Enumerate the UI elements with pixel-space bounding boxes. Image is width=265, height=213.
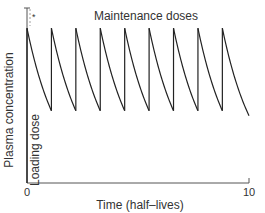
curve-layer bbox=[27, 28, 249, 183]
axes bbox=[24, 8, 249, 183]
y-axis-label: Plasma concentration bbox=[2, 52, 16, 167]
x-axis-label: Time (half–lives) bbox=[96, 198, 184, 212]
asterisk-annotation: * bbox=[32, 12, 36, 22]
x-tick-label-0: 0 bbox=[24, 186, 30, 198]
chart-svg: * Maintenance doses Loading dose Plasma … bbox=[0, 0, 265, 213]
decay-segment-7 bbox=[198, 28, 222, 111]
decay-segment-5 bbox=[149, 28, 173, 111]
decay-segment-1 bbox=[51, 28, 75, 111]
decay-segment-6 bbox=[174, 28, 198, 111]
decay-segment-3 bbox=[100, 28, 124, 111]
decay-segment-2 bbox=[76, 28, 100, 111]
decay-segment-0 bbox=[27, 28, 51, 111]
loading-dose-label: Loading dose bbox=[28, 114, 42, 186]
x-tick-label-10: 10 bbox=[243, 186, 255, 198]
decay-segment-8 bbox=[222, 28, 249, 115]
maintenance-doses-label: Maintenance doses bbox=[94, 9, 198, 23]
decay-segment-4 bbox=[125, 28, 149, 111]
